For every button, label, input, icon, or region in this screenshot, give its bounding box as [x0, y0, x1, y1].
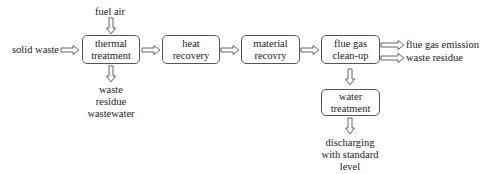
water-line1: water [331, 91, 371, 103]
discharge-label: discharging with standard level [314, 137, 386, 173]
arrow-thermal-to-heat [142, 46, 160, 55]
thermal-line2: treatment [91, 50, 131, 62]
waste-residue-label: waste residue [406, 52, 463, 64]
water-line2: treatment [331, 103, 371, 115]
thermal-out-line2: residue [84, 96, 138, 108]
thermal-output-label: waste residue wastewater [84, 84, 138, 120]
discharge-line2: with standard [314, 149, 386, 161]
thermal-treatment-box: thermal treatment [82, 35, 140, 64]
arrow-thermal-to-residue [107, 66, 116, 82]
arrow-layer [0, 0, 482, 174]
flue-line2: clean-up [332, 50, 368, 62]
flue-gas-emission-label: flue gas emission [406, 39, 479, 51]
arrow-heat-to-material [221, 46, 239, 55]
arrow-flue-to-water [346, 69, 355, 85]
material-line1: material [253, 38, 287, 50]
arrow-flue-to-emission [381, 41, 404, 50]
thermal-out-line3: wastewater [84, 108, 138, 120]
fuel-air-label: fuel air [95, 6, 125, 18]
flue-gas-cleanup-box: flue gas clean-up [321, 35, 380, 64]
thermal-out-line1: waste [84, 84, 138, 96]
arrow-solid-to-thermal [61, 46, 79, 55]
discharge-line1: discharging [314, 137, 386, 149]
arrow-water-to-discharge [346, 118, 355, 134]
flue-line1: flue gas [332, 38, 368, 50]
material-recovery-box: material recovry [241, 35, 300, 64]
solid-waste-label: solid waste [12, 44, 59, 56]
arrow-material-to-flue [301, 46, 319, 55]
material-line2: recovry [253, 50, 287, 62]
heat-recovery-box: heat recovery [162, 35, 220, 64]
arrow-fuel-to-thermal [107, 18, 116, 34]
heat-line1: heat [173, 38, 210, 50]
thermal-line1: thermal [91, 38, 131, 50]
heat-line2: recovery [173, 50, 210, 62]
water-treatment-box: water treatment [321, 89, 380, 116]
discharge-line3: level [314, 161, 386, 173]
arrow-flue-to-residue [381, 54, 404, 63]
